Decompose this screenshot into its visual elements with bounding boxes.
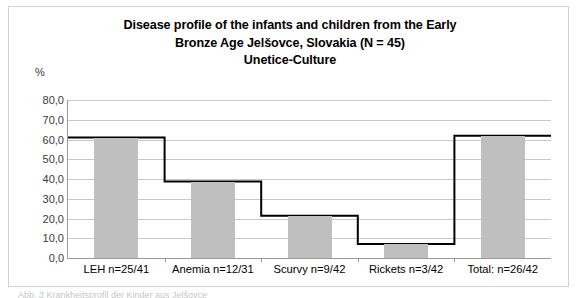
- y-tick-label: 10,0: [20, 233, 64, 244]
- bar-0[interactable]: [94, 138, 138, 258]
- y-tick-label: 0,0: [20, 253, 64, 264]
- x-tick-label-1: Anemia n=12/31: [165, 262, 262, 276]
- y-tick-label: 30,0: [20, 194, 64, 205]
- x-axis-tick-labels: LEH n=25/41Anemia n=12/31Scurvy n=9/42Ri…: [68, 262, 551, 282]
- y-tick-label: 60,0: [20, 135, 64, 146]
- y-tick-label: 40,0: [20, 174, 64, 185]
- chart-figure: Disease profile of the infants and child…: [0, 0, 579, 298]
- y-tick-label: 80,0: [20, 95, 64, 106]
- y-tick-label: 70,0: [20, 115, 64, 126]
- y-axis-tick-labels: 80,070,060,050,040,030,020,010,00,0: [14, 100, 64, 258]
- chart-title-line-3: Unetice-Culture: [30, 52, 550, 70]
- plot-area: [68, 100, 551, 258]
- y-axis-unit-label: %: [35, 66, 45, 78]
- chart-title: Disease profile of the infants and child…: [30, 17, 550, 70]
- gridline-0-0: [68, 258, 551, 259]
- x-tick-label-4: Total: n=26/42: [454, 262, 551, 276]
- chart-title-line-1: Disease profile of the infants and child…: [30, 17, 550, 35]
- x-tick-label-0: LEH n=25/41: [68, 262, 165, 276]
- bar-3[interactable]: [384, 244, 428, 258]
- x-tick-label-2: Scurvy n=9/42: [261, 262, 358, 276]
- y-tick-label: 50,0: [20, 154, 64, 165]
- page-caption-sliver: Abb. 3 Krankheitsprofil der Kinder aus J…: [18, 290, 563, 298]
- bar-1[interactable]: [191, 182, 235, 258]
- y-tick-label: 20,0: [20, 214, 64, 225]
- chart-title-line-2: Bronze Age Jelšovce, Slovakia (N = 45): [30, 35, 550, 53]
- bar-2[interactable]: [288, 216, 332, 258]
- bar-4[interactable]: [481, 136, 525, 258]
- x-tick-label-3: Rickets n=3/42: [358, 262, 455, 276]
